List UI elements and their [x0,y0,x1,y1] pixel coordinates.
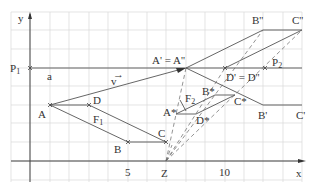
label-B-prime: B' [258,109,267,121]
label-C: C [158,127,165,139]
label-P2: P2 [272,56,282,70]
x-axis-label: x [296,167,302,179]
grid [11,12,302,182]
label-C-double-prime: C'' [292,14,303,26]
label-D-star: D* [196,114,209,126]
label-A-star: A* [163,106,176,118]
label-B-star: B* [202,85,215,97]
vector-v-arrow-mark: → [113,68,124,80]
vector-v-arrow-icon [176,68,186,73]
tick-5: 5 [125,166,131,178]
geometry-diagram: y x 5 10 P1 a v → A D F1 B C A' = A'' D'… [0,0,313,192]
label-a: a [47,70,52,82]
y-axis-arrow-icon [28,12,32,19]
label-F2: F2 [185,92,195,106]
label-D-prime: D' = D'' [226,71,260,83]
label-P1: P1 [10,62,20,76]
label-C-prime: C' [296,109,305,121]
label-B-double-prime: B'' [252,14,263,26]
label-C-star: C* [234,95,247,107]
tick-10: 10 [219,166,231,178]
label-B: B [114,143,121,155]
label-D: D [93,94,101,106]
label-A-prime: A' = A'' [152,54,185,66]
label-Z: Z [161,167,168,179]
label-F1: F1 [93,113,103,127]
y-axis-label: y [18,12,24,24]
label-A: A [38,108,46,120]
